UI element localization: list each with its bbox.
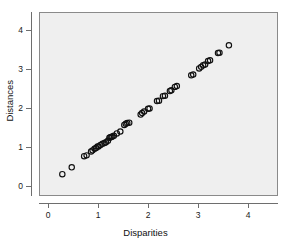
x-axis-title: Disparities — [0, 228, 291, 238]
y-tick-label: 4 — [18, 26, 23, 35]
y-axis-line — [31, 12, 32, 196]
y-tick-mark — [26, 69, 31, 70]
y-tick-mark — [26, 108, 31, 109]
y-axis-title: Distances — [5, 56, 15, 146]
x-tick-mark — [148, 203, 149, 208]
y-tick-mark — [26, 186, 31, 187]
x-tick-mark — [48, 203, 49, 208]
x-axis-line — [39, 203, 278, 204]
x-tick-mark — [198, 203, 199, 208]
x-tick-label: 4 — [246, 211, 251, 220]
plot-panel — [39, 12, 278, 196]
x-tick-label: 1 — [96, 211, 101, 220]
data-point — [60, 172, 65, 177]
data-point — [226, 43, 231, 48]
x-tick-label: 3 — [196, 211, 201, 220]
x-tick-label: 2 — [146, 211, 151, 220]
x-tick-label: 0 — [46, 211, 51, 220]
y-tick-mark — [26, 30, 31, 31]
data-points-layer — [40, 13, 277, 195]
scatter-plot-figure: 01234 01234 Disparities Distances — [0, 0, 291, 245]
y-tick-label: 0 — [18, 181, 23, 190]
y-tick-label: 3 — [18, 65, 23, 74]
y-tick-label: 1 — [18, 142, 23, 151]
y-tick-label: 2 — [18, 103, 23, 112]
x-tick-mark — [248, 203, 249, 208]
x-tick-mark — [98, 203, 99, 208]
y-tick-mark — [26, 147, 31, 148]
data-point — [69, 165, 74, 170]
